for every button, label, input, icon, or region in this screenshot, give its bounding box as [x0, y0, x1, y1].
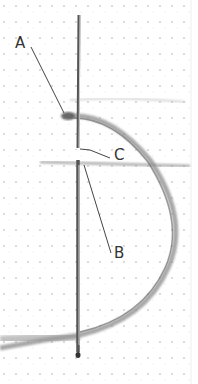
needle-diagram: A B C: [0, 0, 198, 384]
label-c: C: [114, 148, 124, 163]
thread-tail: [0, 336, 80, 340]
needle-illustration: [0, 0, 198, 384]
needle-eye: [76, 352, 81, 358]
fabric-texture: [0, 0, 190, 384]
thread-knot: [61, 112, 75, 120]
label-b: B: [114, 246, 124, 261]
label-a: A: [15, 36, 25, 51]
